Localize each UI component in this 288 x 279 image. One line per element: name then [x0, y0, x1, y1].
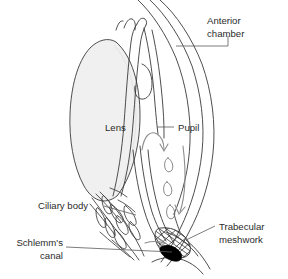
label-trabecular-meshwork-line1: Trabecular: [219, 221, 265, 232]
eye-cross-section-diagram: Anterior chamber Lens Pupil Ciliary body…: [0, 0, 288, 279]
aqueous-flow-arrow-lower: [180, 146, 185, 212]
label-pupil: Pupil: [178, 122, 199, 133]
label-anterior-chamber-line1: Anterior: [207, 15, 241, 26]
aqueous-flow-droplet-2: [164, 182, 172, 196]
cornea-sclera-group: [138, 0, 214, 274]
iris-root-posterior: [148, 150, 174, 243]
aqueous-flow-droplet-1: [165, 158, 173, 172]
label-ciliary-body: Ciliary body: [38, 200, 88, 211]
aqueous-flow-droplet-3: [167, 205, 175, 219]
aqueous-flow-arrow-lower-head: [175, 205, 185, 214]
iris-upper-crypt: [124, 19, 135, 30]
iris-pigment-fold: [133, 150, 160, 244]
pupil-margin-upper: [137, 18, 147, 25]
iris-lower-anterior-border: [144, 28, 158, 134]
iris-upper-crypt-2: [116, 21, 123, 30]
label-trabecular-meshwork-line2: meshwork: [219, 234, 263, 245]
lens-group: [70, 40, 140, 201]
annotation-text-group: Anterior chamber Lens Pupil Ciliary body…: [16, 15, 265, 261]
label-schlemms-canal-line2: canal: [40, 250, 63, 261]
label-anterior-chamber-line2: chamber: [207, 28, 245, 39]
trabecular-crosshatch: [140, 212, 211, 278]
trabecular-meshwork-group: [140, 212, 211, 278]
aqueous-flow-arrow-upper: [142, 133, 164, 150]
lens-body: [70, 40, 140, 201]
aqueous-flow-group: [142, 133, 185, 247]
iris-root-anterior: [140, 146, 166, 241]
aqueous-flow-arrow-angle: [145, 242, 164, 244]
corneal-endothelium-line: [138, 0, 190, 214]
leader-trabecular-meshwork: [186, 226, 215, 240]
iris-lower-posterior-border: [152, 30, 164, 138]
label-schlemms-canal-line1: Schlemm's: [16, 237, 63, 248]
label-lens: Lens: [105, 122, 126, 133]
sclera-outer-curve: [160, 0, 214, 266]
eye-anatomy-figure: Anterior chamber Lens Pupil Ciliary body…: [0, 0, 288, 279]
ciliary-strand-2: [90, 204, 115, 235]
